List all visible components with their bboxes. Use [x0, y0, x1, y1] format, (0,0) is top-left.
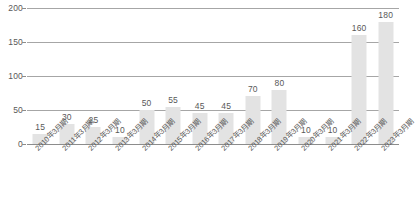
- bar-value-label: 180: [378, 11, 393, 20]
- bar-value-label: 50: [142, 99, 152, 108]
- bar-value-label: 45: [221, 102, 231, 111]
- x-axis-labels: 2010年3月期2011年3月期2012年3月期2013年3月期2014年3月期…: [27, 144, 399, 205]
- y-tick-mark: [22, 110, 26, 111]
- bar-value-label: 45: [195, 102, 205, 111]
- bar-value-label: 70: [248, 85, 258, 94]
- y-tick-mark: [22, 144, 26, 145]
- y-tick-mark: [22, 76, 26, 77]
- y-tick-mark: [22, 42, 26, 43]
- bar-value-label: 160: [352, 24, 367, 33]
- y-tick-label: 200: [0, 4, 23, 13]
- y-tick-label: 50: [0, 106, 23, 115]
- y-axis-labels: 050100150200: [0, 8, 23, 144]
- y-tick-mark: [22, 8, 26, 9]
- y-tick-label: 0: [0, 140, 23, 149]
- bar-value-label: 80: [274, 79, 284, 88]
- bar-group: 15: [27, 8, 54, 144]
- bar-value-label: 15: [35, 123, 45, 132]
- y-tick-label: 100: [0, 72, 23, 81]
- bar-value-label: 55: [168, 96, 178, 105]
- y-tick-label: 150: [0, 38, 23, 47]
